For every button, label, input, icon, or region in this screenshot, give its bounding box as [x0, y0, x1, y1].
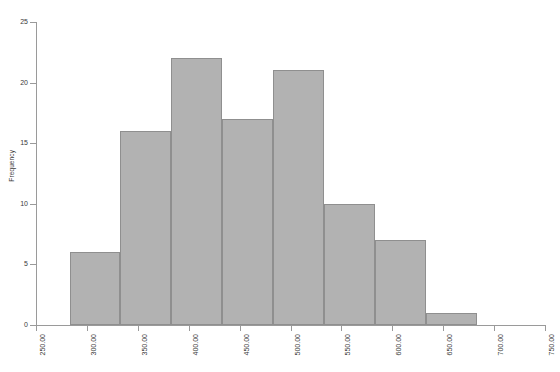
x-tick-mark	[443, 326, 444, 331]
x-tick-label: 650.00	[446, 334, 454, 355]
x-tick-mark	[240, 326, 241, 331]
histogram-chart-page: Frequency 0510152025 250.00300.00350.004…	[0, 0, 560, 372]
x-tick-mark	[494, 326, 495, 331]
y-axis-title: Frequency	[8, 150, 15, 182]
x-tick-label: 750.00	[548, 334, 556, 355]
x-tick-label: 600.00	[395, 334, 403, 355]
y-tick-label: 20	[6, 79, 28, 87]
x-tick-label: 350.00	[141, 334, 149, 355]
x-tick-mark	[341, 326, 342, 331]
y-tick-label-group: 15	[0, 139, 36, 147]
y-tick-label: 5	[6, 260, 28, 268]
histogram-bar	[171, 58, 222, 325]
y-tick-label: 25	[6, 18, 28, 26]
y-tick-label-group: 10	[0, 200, 36, 208]
x-tick-label: 250.00	[39, 334, 47, 355]
histogram-bar	[375, 240, 426, 325]
y-tick-label-group: 25	[0, 18, 36, 26]
x-tick-mark	[87, 326, 88, 331]
y-tick-label: 15	[6, 139, 28, 147]
x-tick-label: 400.00	[192, 334, 200, 355]
x-tick-label: 700.00	[497, 334, 505, 355]
y-tick-label-group: 5	[0, 260, 36, 268]
y-tick-label: 0	[6, 321, 28, 329]
x-tick-mark	[392, 326, 393, 331]
y-tick-label-group: 0	[0, 321, 36, 329]
y-tick-label: 10	[6, 200, 28, 208]
histogram-bar	[426, 313, 477, 325]
y-axis-line	[36, 22, 37, 326]
histogram-bar	[120, 131, 171, 325]
x-tick-mark	[291, 326, 292, 331]
histogram-bar	[222, 119, 273, 325]
histogram-bar	[273, 70, 324, 325]
x-tick-mark	[545, 326, 546, 331]
plot-area: Frequency 0510152025 250.00300.00350.004…	[0, 0, 560, 372]
histogram-bar	[324, 204, 375, 325]
x-tick-label: 450.00	[243, 334, 251, 355]
x-tick-label: 500.00	[294, 334, 302, 355]
x-tick-mark	[36, 326, 37, 331]
y-tick-label-group: 20	[0, 79, 36, 87]
x-tick-label: 300.00	[90, 334, 98, 355]
x-tick-label: 550.00	[344, 334, 352, 355]
x-tick-mark	[189, 326, 190, 331]
x-tick-mark	[138, 326, 139, 331]
histogram-bar	[70, 252, 121, 325]
